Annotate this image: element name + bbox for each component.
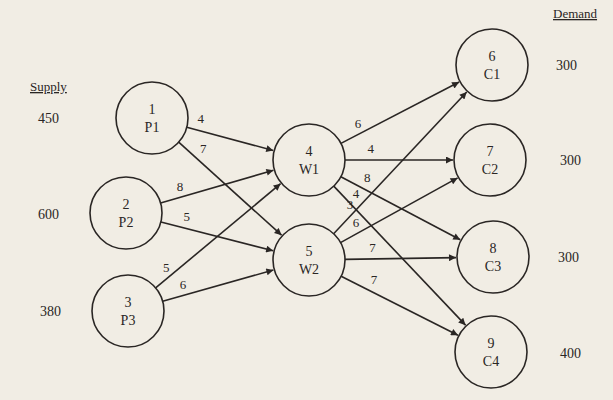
nodes-layer: 1P12P23P34W15W26C17C28C39C4 (90, 29, 529, 388)
node-number: 8 (490, 241, 497, 256)
supply-value-p2: 600 (38, 207, 59, 222)
node-label: C4 (483, 354, 499, 369)
node-number: 6 (489, 49, 496, 64)
node-circle (116, 82, 188, 154)
edge-arrow-5-9 (341, 276, 458, 335)
supply-value-p3: 380 (40, 304, 61, 319)
node-number: 4 (306, 144, 313, 159)
demand-value-c3: 300 (558, 250, 579, 265)
supply-header: Supply (30, 79, 67, 94)
node-w1: 4W1 (273, 124, 345, 196)
edge-cost-label-4-9: 4 (353, 186, 360, 201)
node-circle (457, 221, 529, 293)
node-circle (456, 29, 528, 101)
node-circle (455, 316, 527, 388)
demand-value-c1: 300 (556, 58, 577, 73)
demand-value-c2: 300 (560, 153, 581, 168)
edge-cost-label-5-8: 7 (369, 240, 376, 255)
node-number: 3 (125, 295, 132, 310)
node-number: 7 (487, 144, 494, 159)
node-number: 5 (306, 244, 313, 259)
node-c3: 8C3 (457, 221, 529, 293)
node-circle (92, 275, 164, 347)
supply-value-p1: 450 (38, 111, 59, 126)
transshipment-network-diagram: Supply Demand 47855664843677 1P12P23P34W… (0, 0, 613, 400)
edge-cost-label-5-7: 6 (353, 215, 360, 230)
edge-cost-label-5-9: 7 (371, 272, 378, 287)
demand-value-c4: 400 (560, 346, 581, 361)
edge-cost-label-4-7: 4 (368, 141, 375, 156)
node-label: P3 (121, 313, 136, 328)
demand-header: Demand (553, 6, 598, 21)
node-label: P2 (119, 215, 134, 230)
edge-cost-label-2-4: 8 (177, 179, 184, 194)
node-label: C2 (482, 162, 498, 177)
node-label: P1 (145, 120, 160, 135)
node-p2: 2P2 (90, 177, 162, 249)
node-circle (273, 124, 345, 196)
edge-cost-label-2-5: 5 (184, 209, 191, 224)
node-label: W2 (299, 262, 319, 277)
node-p3: 3P3 (92, 275, 164, 347)
node-c4: 9C4 (455, 316, 527, 388)
node-circle (90, 177, 162, 249)
edge-arrow-4-6 (341, 82, 459, 143)
edge-cost-label-1-4: 4 (197, 111, 204, 126)
edge-arrow-1-5 (179, 142, 282, 235)
edge-arrow-5-8 (345, 258, 456, 260)
edge-cost-label-3-5: 6 (180, 277, 187, 292)
edge-cost-label-5-6: 3 (347, 197, 354, 212)
edge-cost-label-4-6: 6 (355, 116, 362, 131)
node-label: W1 (299, 162, 319, 177)
node-number: 2 (123, 197, 130, 212)
node-c2: 7C2 (454, 124, 526, 196)
node-circle (454, 124, 526, 196)
node-number: 1 (149, 102, 156, 117)
edges-layer: 47855664843677 (156, 82, 467, 335)
node-number: 9 (488, 336, 495, 351)
edge-cost-label-3-4: 5 (163, 260, 170, 275)
node-p1: 1P1 (116, 82, 188, 154)
node-c1: 6C1 (456, 29, 528, 101)
edge-cost-label-1-5: 7 (200, 141, 207, 156)
node-label: C3 (485, 259, 501, 274)
node-label: C1 (484, 67, 500, 82)
node-w2: 5W2 (273, 224, 345, 296)
node-circle (273, 224, 345, 296)
edge-cost-label-4-8: 8 (364, 170, 371, 185)
